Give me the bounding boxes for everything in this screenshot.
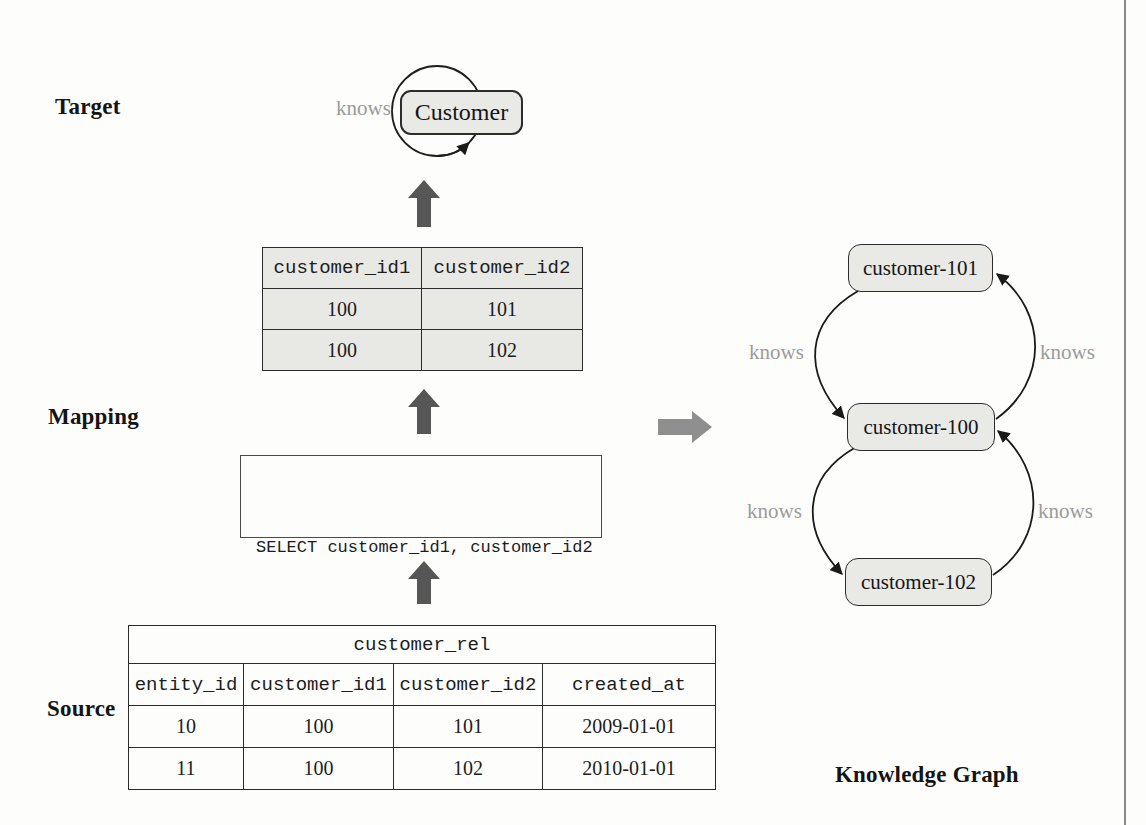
- mapping-table: customer_id1 customer_id2 100 101 100 10…: [262, 247, 583, 371]
- source-table-cell: 11: [129, 748, 244, 790]
- source-table-cell: 102: [394, 748, 543, 790]
- up-arrow-sql-to-mapping: [408, 389, 440, 434]
- source-table-header-cell: entity_id: [129, 664, 244, 706]
- kg-node-customer-101: customer-101: [848, 244, 993, 292]
- sql-mapping-box: SELECT customer_id1, customer_id2 FROM c…: [240, 455, 602, 538]
- source-table-name: customer_rel: [129, 626, 716, 664]
- mapping-section-label: Mapping: [48, 404, 139, 430]
- kg-edge-label-right-bottom: knows: [1038, 499, 1093, 524]
- source-table-header-cell: customer_id2: [394, 664, 543, 706]
- mapping-table-row: 100 101: [263, 289, 583, 330]
- source-table-title-row: customer_rel: [129, 626, 716, 664]
- sql-line: SELECT customer_id1, customer_id2: [256, 531, 601, 565]
- knowledge-graph-label: Knowledge Graph: [835, 762, 1019, 788]
- mapping-table-cell: 101: [422, 289, 583, 330]
- target-customer-node: Customer: [400, 90, 523, 135]
- source-table-cell: 101: [394, 706, 543, 748]
- source-table-cell: 2010-01-01: [543, 748, 716, 790]
- kg-node-customer-102: customer-102: [845, 558, 992, 606]
- source-table-header-cell: customer_id1: [244, 664, 394, 706]
- kg-edge-100-to-101: [996, 274, 1035, 419]
- up-arrow-mapping-to-target: [408, 180, 440, 227]
- source-table-cell: 100: [244, 706, 394, 748]
- source-table-header-row: entity_id customer_id1 customer_id2 crea…: [129, 664, 716, 706]
- page-edge-line: [1124, 0, 1126, 825]
- kg-node-text: customer-100: [863, 415, 978, 440]
- target-self-loop-arrowhead: [437, 143, 469, 156]
- mapping-table-cell: 102: [422, 330, 583, 371]
- target-knows-edge-label: knows: [336, 96, 391, 121]
- mapping-table-row: 100 102: [263, 330, 583, 371]
- kg-node-text: customer-101: [863, 256, 978, 281]
- kg-node-text: customer-102: [861, 570, 976, 595]
- source-table-cell: 100: [244, 748, 394, 790]
- source-table-header-cell: created_at: [543, 664, 716, 706]
- kg-node-customer-100: customer-100: [847, 403, 995, 451]
- mapping-table-cell: 100: [263, 289, 422, 330]
- mapping-table-header-row: customer_id1 customer_id2: [263, 248, 583, 289]
- source-table-row: 10 100 101 2009-01-01: [129, 706, 716, 748]
- figure-canvas: Target Mapping Source Knowledge Graph kn…: [0, 0, 1146, 825]
- mapping-table-header-cell: customer_id2: [422, 248, 583, 289]
- kg-edge-label-right-top: knows: [1040, 340, 1095, 365]
- kg-edge-label-left-bottom: knows: [747, 499, 802, 524]
- source-table-row: 11 100 102 2010-01-01: [129, 748, 716, 790]
- kg-edge-102-to-100: [993, 431, 1033, 575]
- source-table-cell: 10: [129, 706, 244, 748]
- right-arrow-to-knowledge-graph: [658, 411, 712, 443]
- kg-edge-100-to-102: [813, 447, 856, 574]
- kg-edge-101-to-100: [815, 291, 858, 418]
- target-customer-node-text: Customer: [415, 99, 508, 126]
- mapping-table-header-cell: customer_id1: [263, 248, 422, 289]
- mapping-table-cell: 100: [263, 330, 422, 371]
- target-section-label: Target: [55, 94, 121, 120]
- source-section-label: Source: [47, 696, 116, 722]
- source-table: customer_rel entity_id customer_id1 cust…: [128, 625, 716, 790]
- kg-edge-label-left-top: knows: [749, 340, 804, 365]
- source-table-cell: 2009-01-01: [543, 706, 716, 748]
